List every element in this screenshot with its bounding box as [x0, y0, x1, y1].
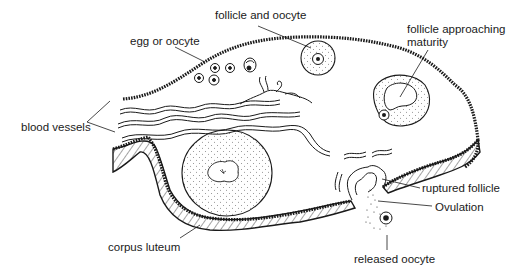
label-follicle-approaching-maturity-line1: follicle approaching: [407, 23, 505, 35]
label-follicle-and-oocyte: follicle and oocyte: [215, 9, 306, 21]
label-corpus-luteum: corpus luteum: [108, 241, 180, 253]
label-follicle-approaching-maturity-line2: maturity: [407, 36, 448, 48]
label-egg-or-oocyte: egg or oocyte: [130, 35, 200, 47]
label-ovulation: Ovulation: [435, 201, 484, 213]
label-blood-vessels: blood vessels: [21, 121, 91, 133]
label-released-oocyte: released oocyte: [354, 253, 435, 265]
ruptured-follicle-shape: [335, 149, 392, 200]
follicle-approaching-maturity: [374, 75, 430, 126]
corpus-luteum-body: [182, 130, 272, 216]
label-ruptured-follicle: ruptured follicle: [422, 182, 500, 194]
released-oocyte-shape: [365, 189, 392, 229]
